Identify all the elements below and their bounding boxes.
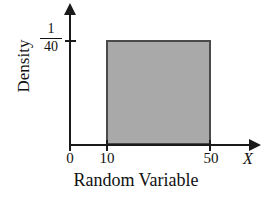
uniform-density-bar	[106, 40, 211, 145]
y-tick-label-one-fortieth: 1 40	[36, 22, 66, 54]
y-axis-arrow-icon	[64, 3, 76, 15]
fraction-denominator: 40	[36, 39, 66, 55]
y-tick-mark-one-fortieth	[65, 40, 76, 42]
x-axis-title: Random Variable	[0, 170, 272, 191]
x-tick-label-50: 50	[191, 150, 231, 167]
x-axis-line	[69, 144, 252, 146]
x-tick-label-0: 0	[50, 150, 90, 167]
y-axis-line	[69, 14, 71, 146]
x-tick-label-10: 10	[87, 150, 127, 167]
uniform-density-figure: 0 10 50 X 1 40 Density Random Variable	[0, 0, 272, 199]
y-axis-title: Density	[14, 16, 34, 116]
fraction-numerator: 1	[36, 22, 66, 38]
x-axis-variable-symbol: X	[243, 150, 253, 168]
